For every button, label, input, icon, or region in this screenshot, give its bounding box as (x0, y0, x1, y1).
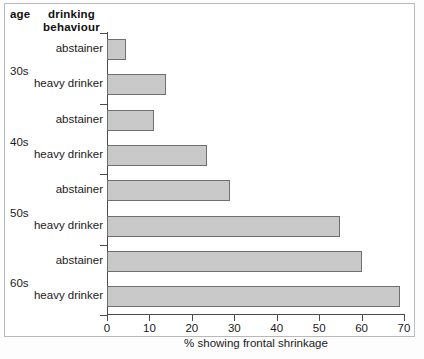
bar (107, 39, 126, 60)
x-axis-tick (319, 315, 320, 321)
x-axis-tick (362, 315, 363, 321)
bar (107, 180, 230, 201)
x-axis-title: % showing frontal shrinkage (107, 337, 405, 349)
bar (107, 251, 362, 272)
x-axis-tick (149, 315, 150, 321)
y-axis-tick (100, 104, 107, 105)
age-group-label: 60s (10, 277, 29, 289)
bar (107, 216, 340, 237)
x-axis-tick-label: 60 (347, 322, 377, 334)
bar-label: heavy drinker (7, 289, 107, 301)
age-group-label: 50s (10, 207, 29, 219)
x-axis-tick-label: 50 (304, 322, 334, 334)
chart-figure: age drinking behaviour abstainerheavy dr… (0, 0, 424, 359)
x-axis-tick-label: 40 (262, 322, 292, 334)
y-axis-tick (100, 315, 107, 316)
bar (107, 286, 400, 307)
x-axis-tick-label: 30 (219, 322, 249, 334)
plot-area (107, 32, 404, 314)
bar-label: abstainer (7, 42, 107, 54)
bar-label: abstainer (7, 183, 107, 195)
x-axis-tick-label: 0 (92, 322, 122, 334)
x-axis-tick (404, 315, 405, 321)
y-axis-tick (100, 174, 107, 175)
bar (107, 145, 207, 166)
age-group-label: 40s (10, 136, 29, 148)
age-group-label: 30s (10, 65, 29, 77)
y-axis-tick (100, 33, 107, 34)
x-axis-tick (234, 315, 235, 321)
bar (107, 110, 154, 131)
x-axis-tick (192, 315, 193, 321)
x-axis-tick-label: 10 (134, 322, 164, 334)
x-axis-tick (277, 315, 278, 321)
bar-label: abstainer (7, 254, 107, 266)
x-axis-tick-label: 70 (389, 322, 419, 334)
category-label-column: abstainerheavy drinkerabstainerheavy dri… (0, 0, 107, 359)
bar (107, 74, 166, 95)
x-axis-tick-label: 20 (177, 322, 207, 334)
x-axis-spine (107, 314, 405, 315)
bar-label: heavy drinker (7, 148, 107, 160)
x-axis-tick (107, 315, 108, 321)
bar-label: heavy drinker (7, 77, 107, 89)
bar-label: heavy drinker (7, 219, 107, 231)
y-axis-tick (100, 245, 107, 246)
bar-label: abstainer (7, 113, 107, 125)
